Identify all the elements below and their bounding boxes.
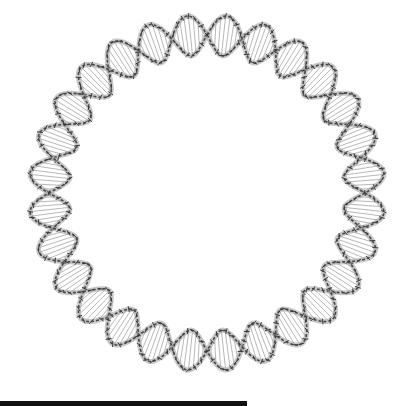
circular-dna-image [0,0,414,406]
image-canvas [0,0,414,406]
scale-bar [0,401,247,406]
